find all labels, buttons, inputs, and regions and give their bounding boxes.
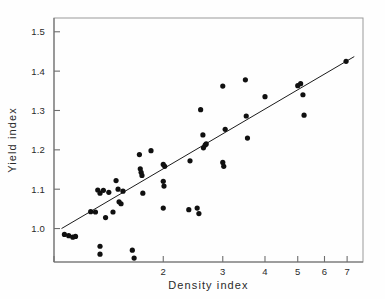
- data-point: [113, 178, 118, 183]
- x-tick-label: 4: [262, 266, 267, 277]
- data-point: [298, 81, 303, 86]
- data-point: [220, 83, 225, 88]
- data-point: [73, 234, 78, 239]
- x-tick-label: 3: [220, 266, 225, 277]
- y-axis-title: Yield index: [6, 107, 18, 173]
- data-point: [161, 205, 166, 210]
- x-axis-title: Density index: [168, 279, 248, 291]
- y-tick-label: 1.1: [31, 184, 45, 195]
- data-point: [93, 209, 98, 214]
- data-point: [343, 59, 348, 64]
- data-point: [221, 164, 226, 169]
- x-tick-label: 2: [161, 266, 166, 277]
- chart-canvas: 1.01.11.21.31.41.5234567Density indexYie…: [0, 0, 385, 299]
- data-point: [103, 215, 108, 220]
- x-tick-label: 6: [322, 266, 327, 277]
- y-tick-label: 1.2: [31, 144, 45, 155]
- data-point: [120, 189, 125, 194]
- data-point: [243, 77, 248, 82]
- data-point: [101, 188, 106, 193]
- data-point: [204, 141, 209, 146]
- data-point: [223, 127, 228, 132]
- data-point: [139, 173, 144, 178]
- data-point: [140, 191, 145, 196]
- data-point: [148, 148, 153, 153]
- data-point: [110, 209, 115, 214]
- data-point: [244, 113, 249, 118]
- data-point: [88, 209, 93, 214]
- data-point: [195, 205, 200, 210]
- data-point: [186, 207, 191, 212]
- data-point: [300, 92, 305, 97]
- data-point: [97, 252, 102, 257]
- y-tick-label: 1.4: [31, 66, 45, 77]
- y-tick-label: 1.0: [31, 223, 45, 234]
- data-point: [132, 255, 137, 260]
- data-point: [115, 187, 120, 192]
- data-point: [200, 132, 205, 137]
- data-point: [137, 152, 142, 157]
- data-point: [161, 179, 166, 184]
- y-tick-label: 1.3: [31, 105, 45, 116]
- data-point: [301, 113, 306, 118]
- data-point: [118, 201, 123, 206]
- y-tick-label: 1.5: [31, 26, 45, 37]
- x-tick-label: 5: [295, 266, 300, 277]
- data-point: [106, 190, 111, 195]
- data-point: [97, 244, 102, 249]
- x-tick-label: 7: [344, 266, 349, 277]
- data-point: [196, 211, 201, 216]
- data-point: [262, 94, 267, 99]
- data-point: [162, 164, 167, 169]
- scatter-plot-figure: 1.01.11.21.31.41.5234567Density indexYie…: [0, 0, 385, 299]
- data-point: [130, 248, 135, 253]
- plot-frame: [54, 18, 363, 262]
- data-point: [245, 135, 250, 140]
- data-point: [187, 158, 192, 163]
- data-point: [161, 183, 166, 188]
- data-point: [198, 107, 203, 112]
